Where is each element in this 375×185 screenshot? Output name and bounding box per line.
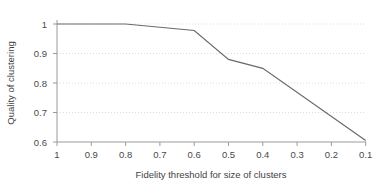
x-tick-label: 0.1 [359,149,372,160]
y-tick-label: 0.9 [34,48,47,59]
data-series-line [57,24,366,141]
x-tick-label: 0.8 [119,149,132,160]
x-tick-label: 0.5 [222,149,235,160]
y-tick-label: 0.8 [34,78,47,89]
x-tick-label: 0.9 [85,149,98,160]
x-tick-marks [57,142,366,146]
line-chart: 1 0.9 0.8 0.7 0.6 1 0.9 0.8 0.7 0.6 0.5 … [0,0,375,185]
y-tick-marks [53,24,57,142]
y-tick-labels: 1 0.9 0.8 0.7 0.6 [34,19,47,148]
x-tick-label: 0.3 [290,149,303,160]
y-tick-label: 0.7 [34,107,47,118]
y-axis-title: Quality of clustering [5,41,16,124]
x-tick-label: 0.2 [325,149,338,160]
x-tick-label: 0.7 [153,149,166,160]
y-tick-label: 1 [42,19,47,30]
x-tick-label: 1 [54,149,59,160]
x-tick-label: 0.6 [188,149,201,160]
gridlines-horizontal [57,24,366,113]
x-tick-label: 0.4 [256,149,269,160]
x-axis-title: Fidelity threshold for size of clusters [135,169,286,180]
axis-lines [57,20,366,142]
figure-container: 1 0.9 0.8 0.7 0.6 1 0.9 0.8 0.7 0.6 0.5 … [0,0,375,185]
y-tick-label: 0.6 [34,137,47,148]
x-tick-labels: 1 0.9 0.8 0.7 0.6 0.5 0.4 0.3 0.2 0.1 [54,149,372,160]
